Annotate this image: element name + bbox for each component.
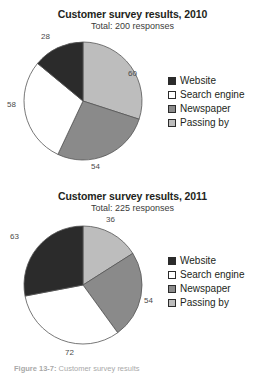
- legend-label-passing-by: Passing by: [180, 117, 229, 128]
- legend-item-website: Website: [168, 254, 264, 267]
- chart-title-2011: Customer survey results, 2011: [0, 190, 265, 202]
- figure-caption: Figure 13-7: Customer survey results: [14, 364, 264, 373]
- slice-label-website-2010: 28: [41, 32, 50, 41]
- figure-caption-number: Figure 13-7:: [14, 364, 57, 373]
- legend-label-website: Website: [180, 255, 216, 266]
- legend-swatch-website-icon: [168, 257, 176, 265]
- slice-label-website-2011: 63: [10, 232, 19, 241]
- legend-item-passing-by: Passing by: [168, 296, 264, 309]
- legend-item-newspaper: Newspaper: [168, 282, 264, 295]
- pie-svg-2011: [22, 224, 144, 346]
- legend-label-newspaper: Newspaper: [180, 283, 231, 294]
- chart-2010: Customer survey results, 2010 Total: 200…: [0, 0, 265, 186]
- chart-subtitle-2010: Total: 200 responses: [0, 21, 265, 32]
- legend-label-website: Website: [180, 75, 216, 86]
- legend-item-website: Website: [168, 74, 264, 87]
- legend-label-search-engine: Search engine: [180, 89, 245, 100]
- legend-swatch-search-engine-icon: [168, 271, 176, 279]
- legend-label-newspaper: Newspaper: [180, 103, 231, 114]
- slice-label-newspaper-2011: 54: [144, 296, 153, 305]
- legend-swatch-search-engine-icon: [168, 91, 176, 99]
- legend-swatch-passing-by-icon: [168, 119, 176, 127]
- chart-title-2010: Customer survey results, 2010: [0, 8, 265, 20]
- legend-item-search-engine: Search engine: [168, 88, 264, 101]
- legend-swatch-newspaper-icon: [168, 285, 176, 293]
- legend-2011: Website Search engine Newspaper Passing …: [168, 254, 264, 310]
- legend-swatch-passing-by-icon: [168, 299, 176, 307]
- slice-label-search-engine-2010: 58: [7, 100, 16, 109]
- pie-slice-website: [24, 226, 83, 296]
- legend-item-search-engine: Search engine: [168, 268, 264, 281]
- figure-caption-text: Customer survey results: [59, 364, 140, 373]
- legend-item-passing-by: Passing by: [168, 116, 264, 129]
- slice-label-passing-by-2010: 60: [128, 69, 137, 78]
- pie-chart-2010: 60 54 58 28: [22, 40, 144, 162]
- legend-2010: Website Search engine Newspaper Passing …: [168, 74, 264, 130]
- chart-2011: Customer survey results, 2011 Total: 225…: [0, 186, 265, 372]
- legend-label-search-engine: Search engine: [180, 269, 245, 280]
- slice-label-passing-by-2011: 36: [106, 215, 115, 224]
- chart-subtitle-2011: Total: 225 responses: [0, 203, 265, 214]
- legend-label-passing-by: Passing by: [180, 297, 229, 308]
- slice-label-newspaper-2010: 54: [91, 162, 100, 171]
- pie-svg-2010: [22, 40, 144, 162]
- pie-chart-2011: 36 54 72 63: [22, 224, 144, 346]
- legend-swatch-newspaper-icon: [168, 105, 176, 113]
- slice-label-search-engine-2011: 72: [65, 348, 74, 357]
- legend-item-newspaper: Newspaper: [168, 102, 264, 115]
- legend-swatch-website-icon: [168, 77, 176, 85]
